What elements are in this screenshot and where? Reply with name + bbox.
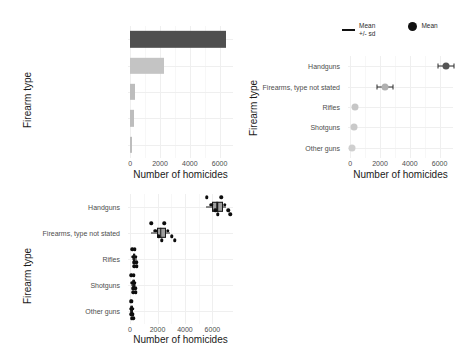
mean-sd-panel: Mean+/- sd Mean Firearm type Other gunsS…	[236, 8, 473, 180]
jitter-point	[223, 203, 227, 207]
bar-other-guns	[130, 137, 132, 153]
gridline-horizontal	[128, 233, 233, 234]
jitter-point	[130, 307, 134, 311]
legend-label-mean-sd-line2: +/- sd	[359, 30, 375, 37]
bar-handguns	[130, 31, 225, 47]
bar-panel-x-axis-title: Number of homicides	[128, 169, 233, 180]
error-bar-cap	[392, 84, 393, 89]
error-bar-cap	[454, 64, 455, 69]
mean-dot	[348, 144, 355, 151]
jitter-point	[131, 313, 135, 317]
x-tick-label: 2000	[152, 160, 168, 167]
mean-sd-legend: Mean+/- sd Mean	[342, 22, 438, 38]
jitter-point	[205, 195, 209, 199]
x-tick-label: 6000	[432, 160, 448, 167]
legend-label-mean: Mean	[421, 22, 437, 30]
x-tick-label: 0	[128, 160, 132, 167]
jitter-point	[132, 273, 136, 277]
bar-shotguns	[130, 110, 134, 126]
mean-sd-panel-y-axis-title: Firearm type	[248, 80, 259, 136]
y-tick-label: Firearms, type not stated	[43, 230, 120, 237]
x-tick-label: 0	[348, 160, 352, 167]
legend-key-mean: Mean	[408, 22, 437, 31]
jitter-point	[213, 209, 217, 213]
boxplot-panel-x-axis-title: Number of homicides	[128, 334, 233, 345]
jitter-point	[209, 203, 213, 207]
jitter-point	[166, 229, 170, 233]
gridline-horizontal	[128, 118, 233, 119]
gridline-horizontal	[128, 285, 233, 286]
y-tick-label: Other guns	[305, 144, 340, 151]
x-tick-label: 4000	[182, 160, 198, 167]
jitter-point	[133, 287, 137, 291]
legend-key-mean-sd: Mean+/- sd	[342, 22, 375, 38]
jitter-point	[130, 299, 134, 303]
jitter-point	[157, 235, 161, 239]
y-tick-label: Handguns	[308, 63, 340, 70]
mean-dot	[381, 83, 388, 90]
mean-dot	[351, 124, 358, 131]
jitter-point	[134, 291, 138, 295]
mean-sd-panel-plot-area	[348, 56, 453, 158]
legend-label-mean-sd: Mean+/- sd	[359, 22, 375, 38]
bar-panel-y-axis-title: Firearm type	[22, 72, 33, 128]
legend-dot-icon	[408, 22, 417, 31]
y-tick-label: Handguns	[88, 204, 120, 211]
x-tick-label: 6000	[212, 160, 228, 167]
x-tick-label: 2000	[372, 160, 388, 167]
x-tick-label: 6000	[205, 326, 221, 333]
jitter-point	[133, 281, 137, 285]
gridline-horizontal	[128, 311, 233, 312]
gridline-horizontal	[128, 259, 233, 260]
jitter-point	[216, 213, 220, 217]
jitter-point	[229, 213, 233, 217]
gridline-horizontal	[348, 127, 453, 128]
x-tick-label: 4000	[402, 160, 418, 167]
jitter-point	[170, 235, 174, 239]
bar-rifles	[130, 84, 134, 100]
bar-panel-plot-area	[128, 26, 233, 158]
error-bar-cap	[377, 84, 378, 89]
jitter-point	[133, 247, 137, 251]
mean-dot	[442, 63, 449, 70]
x-tick-label: 2000	[150, 326, 166, 333]
jitter-point	[135, 261, 139, 265]
jitter-point	[220, 195, 224, 199]
mean-dot	[351, 104, 358, 111]
x-tick-label: 0	[128, 326, 132, 333]
jitter-point	[131, 317, 135, 321]
y-tick-label: Rifles	[322, 104, 340, 111]
legend-label-mean-sd-line1: Mean	[359, 22, 375, 29]
y-tick-label: Shotguns	[310, 124, 340, 131]
jitter-point	[134, 255, 138, 259]
y-tick-label: Other guns	[85, 308, 120, 315]
gridline-horizontal	[348, 107, 453, 108]
y-tick-label: Firearms, type not stated	[263, 83, 340, 90]
gridline-horizontal	[128, 92, 233, 93]
jitter-point	[150, 221, 154, 225]
gridline-horizontal	[348, 87, 453, 88]
jitter-point	[135, 265, 139, 269]
gridline-horizontal	[128, 145, 233, 146]
boxplot-panel-y-axis-title: Firearm type	[22, 248, 33, 304]
jitter-point	[226, 209, 230, 213]
boxplot-panel: Firearm type Other gunsShotgunsRiflesFir…	[0, 182, 240, 357]
legend-line-icon	[342, 29, 355, 31]
boxplot-panel-plot-area	[128, 194, 233, 324]
y-tick-label: Rifles	[102, 256, 120, 263]
gridline-horizontal	[348, 148, 453, 149]
x-tick-label: 4000	[177, 326, 193, 333]
jitter-point	[173, 239, 177, 243]
bar-firearms-type-not-stated	[130, 57, 164, 73]
bar-chart-panel: Firearm type Other gunsShotgunsRiflesFir…	[0, 8, 240, 180]
jitter-point	[160, 239, 164, 243]
jitter-point	[154, 229, 158, 233]
error-bar-cap	[437, 64, 438, 69]
mean-sd-panel-x-axis-title: Number of homicides	[348, 169, 453, 180]
jitter-point	[163, 221, 167, 225]
y-tick-label: Shotguns	[90, 282, 120, 289]
